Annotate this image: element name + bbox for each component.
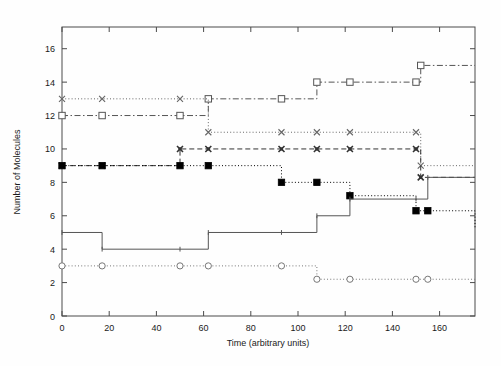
plot-border bbox=[62, 27, 475, 316]
y-tick-label: 4 bbox=[50, 245, 55, 255]
data-point-marker bbox=[413, 79, 419, 85]
x-tick-label: 40 bbox=[151, 323, 161, 333]
series-series-crosses-dashed bbox=[59, 146, 475, 180]
data-point-marker bbox=[205, 129, 211, 135]
data-point-marker bbox=[99, 263, 105, 269]
data-point-marker-core bbox=[280, 147, 283, 150]
data-point-marker bbox=[278, 263, 284, 269]
data-point-marker bbox=[205, 263, 211, 269]
y-tick-label: 6 bbox=[50, 211, 55, 221]
data-point-marker bbox=[314, 179, 320, 185]
x-tick-label: 120 bbox=[338, 323, 353, 333]
data-point-marker bbox=[278, 179, 284, 185]
data-point-marker-core bbox=[178, 147, 181, 150]
data-point-marker-core bbox=[419, 176, 422, 179]
data-point-marker bbox=[177, 263, 183, 269]
x-axis-title: Time (arbitrary units) bbox=[227, 338, 310, 348]
y-tick-label: 8 bbox=[50, 178, 55, 188]
y-tick-label: 2 bbox=[50, 278, 55, 288]
x-tick-label: 100 bbox=[290, 323, 305, 333]
y-axis-ticks: 0246810121416 bbox=[45, 44, 475, 321]
data-point-marker bbox=[314, 79, 320, 85]
series-line bbox=[62, 99, 475, 166]
series-series-crosses-dotted bbox=[59, 96, 475, 169]
x-tick-label: 160 bbox=[432, 323, 447, 333]
data-point-marker bbox=[347, 79, 353, 85]
data-point-marker bbox=[177, 112, 183, 118]
data-series-group bbox=[59, 62, 475, 282]
y-tick-label: 0 bbox=[50, 312, 55, 322]
data-point-marker bbox=[59, 263, 65, 269]
data-point-marker bbox=[425, 208, 431, 214]
plot-frame bbox=[62, 27, 475, 316]
series-line bbox=[62, 149, 475, 177]
x-tick-label: 80 bbox=[246, 323, 256, 333]
data-point-marker bbox=[205, 162, 211, 168]
data-point-marker bbox=[59, 162, 65, 168]
chart-canvas: 020406080100120140160 0246810121416 Time… bbox=[0, 0, 501, 366]
x-tick-label: 140 bbox=[385, 323, 400, 333]
data-point-marker-core bbox=[414, 147, 417, 150]
chart-figure: 020406080100120140160 0246810121416 Time… bbox=[0, 0, 501, 366]
y-axis-title: Number of Molecules bbox=[12, 129, 22, 215]
data-point-marker-core bbox=[207, 147, 210, 150]
x-tick-label: 60 bbox=[199, 323, 209, 333]
data-point-marker bbox=[99, 162, 105, 168]
data-point-marker bbox=[278, 96, 284, 102]
series-line bbox=[62, 166, 475, 229]
data-point-marker bbox=[413, 129, 419, 135]
data-point-marker bbox=[278, 129, 284, 135]
x-tick-label: 20 bbox=[104, 323, 114, 333]
series-series-squares-filled bbox=[59, 162, 475, 229]
data-point-marker bbox=[425, 276, 431, 282]
x-axis-ticks: 020406080100120140160 bbox=[59, 27, 447, 333]
y-tick-label: 16 bbox=[45, 44, 55, 54]
series-series-squares-open bbox=[59, 62, 475, 119]
data-point-marker-core bbox=[315, 147, 318, 150]
data-point-marker bbox=[177, 162, 183, 168]
data-point-marker bbox=[413, 208, 419, 214]
data-point-marker bbox=[347, 276, 353, 282]
data-point-marker bbox=[314, 129, 320, 135]
data-point-marker bbox=[418, 62, 424, 68]
series-line bbox=[62, 65, 475, 115]
data-point-marker-core bbox=[348, 147, 351, 150]
series-series-circles-open bbox=[59, 263, 475, 283]
x-tick-label: 0 bbox=[59, 323, 64, 333]
y-tick-label: 12 bbox=[45, 111, 55, 121]
data-point-marker bbox=[99, 112, 105, 118]
y-tick-label: 14 bbox=[45, 78, 55, 88]
y-tick-label: 10 bbox=[45, 144, 55, 154]
data-point-marker bbox=[59, 112, 65, 118]
data-point-marker bbox=[413, 276, 419, 282]
data-point-marker bbox=[314, 276, 320, 282]
